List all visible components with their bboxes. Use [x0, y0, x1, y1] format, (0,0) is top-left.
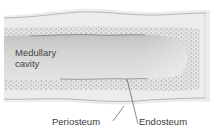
- bone-diagram: Medullary cavity Periosteum Endosteum: [0, 0, 210, 136]
- label-endosteum: Endosteum: [139, 116, 187, 127]
- left-edge: [0, 14, 4, 104]
- label-periosteum: Periosteum: [52, 116, 100, 127]
- label-medullary-cavity: Medullary cavity: [15, 47, 65, 69]
- periosteum-leader-line: [113, 106, 124, 121]
